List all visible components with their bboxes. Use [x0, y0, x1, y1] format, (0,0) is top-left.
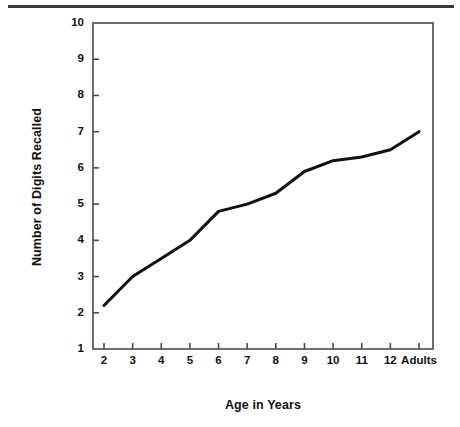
- y-tick-label: 4: [58, 234, 84, 245]
- y-tick-label: 8: [58, 89, 84, 100]
- y-tick-label: 1: [58, 343, 84, 354]
- plot-frame: [93, 23, 433, 349]
- y-tick-label: 10: [58, 17, 84, 28]
- chart-figure: Number of Digits Recalled Age in Years 1…: [0, 0, 460, 427]
- y-tick-label: 5: [58, 198, 84, 209]
- x-tick-label: Adults: [389, 354, 449, 366]
- y-tick-label: 2: [58, 307, 84, 318]
- y-tick-label: 7: [58, 126, 84, 137]
- y-tick-label: 6: [58, 162, 84, 173]
- y-tick-label: 9: [58, 53, 84, 64]
- y-tick-label: 3: [58, 271, 84, 282]
